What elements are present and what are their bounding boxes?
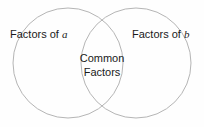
right-set-variable: b: [184, 28, 190, 40]
right-set-label: Factors of b: [132, 28, 189, 41]
left-set-variable: a: [62, 28, 68, 40]
left-set-label-prefix: Factors of: [10, 28, 62, 40]
intersection-label-line2: Factors: [62, 65, 142, 79]
right-set-label-prefix: Factors of: [132, 28, 184, 40]
venn-diagram: Factors of a Factors of b Common Factors: [0, 0, 204, 127]
left-set-label: Factors of a: [10, 28, 67, 41]
intersection-label: Common Factors: [62, 51, 142, 79]
intersection-label-line1: Common: [62, 51, 142, 65]
